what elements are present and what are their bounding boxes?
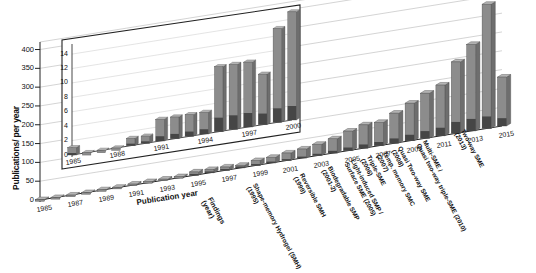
y-axis <box>35 42 40 202</box>
bar <box>282 150 295 160</box>
inset-y-tick-label: 10 <box>52 78 68 85</box>
bar <box>82 190 95 194</box>
y-tick-label: 400 <box>12 45 34 54</box>
inset-bar <box>185 113 197 137</box>
y-tick-label: 300 <box>12 82 34 91</box>
y-tick-label: 350 <box>12 63 34 72</box>
inset-y-tick-label: 6 <box>52 107 68 114</box>
bar <box>390 111 403 144</box>
bar <box>374 120 387 146</box>
bar <box>482 2 495 129</box>
inset-bar <box>244 60 256 127</box>
inset-bar <box>200 110 212 134</box>
inset-y-tick-label: 2 <box>52 136 68 143</box>
inset-bar <box>141 134 153 143</box>
bar <box>267 155 280 163</box>
bar <box>174 174 187 178</box>
inset-bar <box>229 62 241 129</box>
y-tick-label: 0 <box>12 195 34 204</box>
inset-bar <box>156 117 168 141</box>
bar <box>66 192 79 196</box>
inset-y-tick-label: 12 <box>52 64 68 71</box>
bar <box>451 59 464 133</box>
bar <box>313 142 326 156</box>
inset-bar <box>170 115 182 139</box>
bar <box>359 122 372 148</box>
bar <box>436 82 449 135</box>
inset-bar <box>258 72 270 125</box>
bar <box>421 91 434 139</box>
inset-y-tick-label: 0 <box>52 151 68 158</box>
inset-y-tick-label: 8 <box>52 93 68 100</box>
y-axis-title: Publications/ per year <box>11 106 21 190</box>
inset-bar <box>214 65 226 132</box>
inset-bar <box>126 136 138 145</box>
inset-bar <box>68 146 80 155</box>
inset-bar <box>273 26 285 122</box>
bar <box>405 101 418 141</box>
bar <box>467 42 480 131</box>
bar <box>498 74 511 126</box>
bar <box>297 146 310 158</box>
bar <box>143 179 156 183</box>
inset-bar <box>288 10 300 120</box>
bar <box>51 195 64 199</box>
inset-y-tick-label: 14 <box>52 50 68 57</box>
bar <box>328 136 341 153</box>
inset-y-tick-label: 4 <box>52 122 68 129</box>
bar <box>344 129 357 151</box>
bar <box>159 177 172 181</box>
bar <box>128 181 141 185</box>
